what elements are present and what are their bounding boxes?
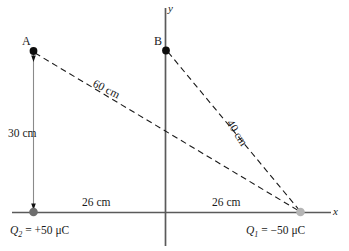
charge-equals-q2: =: [25, 224, 32, 236]
charge-label-q1: Q1 = −50 μC: [246, 225, 305, 239]
point-label-a: A: [22, 35, 31, 47]
dimension-label-26cm-right: 26 cm: [212, 197, 240, 209]
physics-diagram-figure: A B y x 30 cm 60 cm 40 cm 26 cm 26 cm Q2…: [0, 0, 349, 251]
y-axis-label: y: [168, 3, 173, 14]
charge-equals-q1: =: [261, 224, 268, 236]
x-axis-label: x: [333, 206, 338, 217]
charge-unit-q1: μC: [291, 224, 305, 236]
charge-unit-q2: μC: [55, 224, 69, 236]
charge-subscript-q1: 1: [254, 230, 258, 239]
point-marker-A: [30, 47, 38, 55]
charge-value-q2: +50: [35, 224, 53, 236]
charge-marker-Q2: [29, 208, 38, 217]
charge-marker-Q1: [296, 208, 305, 217]
arrowhead-down-top: [31, 56, 36, 63]
charge-value-q1: −50: [271, 224, 289, 236]
dimension-label-30cm: 30 cm: [8, 128, 36, 140]
dashed-line-A-to-Q1: [35, 53, 299, 211]
diagram-canvas: [0, 0, 349, 251]
point-label-b: B: [154, 35, 162, 47]
dimension-label-26cm-left: 26 cm: [82, 197, 110, 209]
point-marker-B: [162, 47, 170, 55]
charge-label-q2: Q2 = +50 μC: [10, 225, 69, 239]
charge-subscript-q2: 2: [18, 230, 22, 239]
